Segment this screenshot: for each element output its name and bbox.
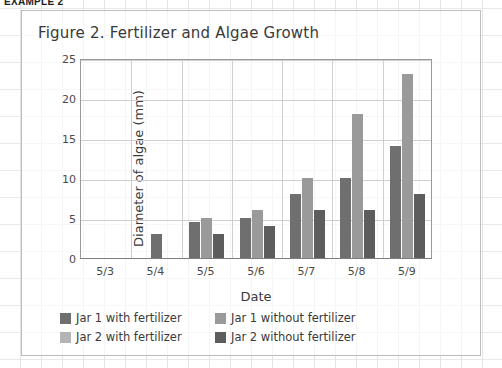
gridline-horizontal (81, 180, 431, 181)
y-tick-label: 10 (54, 173, 76, 186)
plot-area (80, 59, 432, 259)
y-tick-label: 15 (54, 133, 76, 146)
legend-label: Jar 2 with fertilizer (76, 330, 182, 344)
bar (189, 222, 200, 258)
bar (340, 178, 351, 258)
legend-swatch-icon (215, 332, 226, 343)
legend-item[interactable]: Jar 2 without fertilizer (215, 330, 375, 344)
gridline-vertical (182, 60, 183, 258)
legend-item[interactable]: Jar 2 with fertilizer (60, 330, 215, 344)
legend-item[interactable]: Jar 1 without fertilizer (215, 311, 375, 325)
y-axis-tick-labels: 0510152025 (52, 59, 76, 259)
bar (252, 210, 263, 258)
chart-container[interactable]: Figure 2. Fertilizer and Algae Growth 05… (21, 10, 481, 356)
bar (352, 114, 363, 258)
bar (364, 210, 375, 258)
gridline-vertical (131, 60, 132, 258)
gridline-vertical (232, 60, 233, 258)
bar (390, 146, 401, 258)
gridline-horizontal (81, 140, 431, 141)
gridline-horizontal (81, 60, 431, 61)
y-tick-label: 5 (54, 213, 76, 226)
y-tick-label: 25 (54, 53, 76, 66)
bar (240, 218, 251, 258)
gridline-vertical (282, 60, 283, 258)
y-tick-label: 0 (54, 253, 76, 266)
legend-item[interactable]: Jar 1 with fertilizer (60, 311, 215, 325)
gridline-horizontal (81, 100, 431, 101)
legend-label: Jar 1 with fertilizer (76, 311, 182, 325)
x-tick-label: 5/7 (281, 265, 331, 278)
bar (201, 218, 212, 258)
example-label: EXAMPLE 2 (4, 0, 63, 7)
gridline-vertical (332, 60, 333, 258)
x-axis-baseline (80, 258, 432, 259)
x-tick-label: 5/4 (130, 265, 180, 278)
x-axis-title: Date (80, 289, 432, 304)
bar (290, 194, 301, 258)
chart-legend: Jar 1 with fertilizerJar 1 without ferti… (60, 311, 360, 344)
bar (302, 178, 313, 258)
x-tick-label: 5/8 (332, 265, 382, 278)
chart-title: Figure 2. Fertilizer and Algae Growth (38, 24, 319, 42)
bar (264, 226, 275, 258)
x-tick-label: 5/9 (382, 265, 432, 278)
gridline-vertical (383, 60, 384, 258)
x-tick-label: 5/3 (80, 265, 130, 278)
bar (314, 210, 325, 258)
legend-label: Jar 2 without fertilizer (231, 330, 355, 344)
bar (151, 234, 162, 258)
legend-label: Jar 1 without fertilizer (231, 311, 355, 325)
x-tick-label: 5/5 (181, 265, 231, 278)
bar (402, 74, 413, 258)
legend-swatch-icon (60, 313, 71, 324)
x-tick-label: 5/6 (231, 265, 281, 278)
bar (213, 234, 224, 258)
y-tick-label: 20 (54, 93, 76, 106)
legend-swatch-icon (60, 332, 71, 343)
bar (414, 194, 425, 258)
legend-swatch-icon (215, 313, 226, 324)
